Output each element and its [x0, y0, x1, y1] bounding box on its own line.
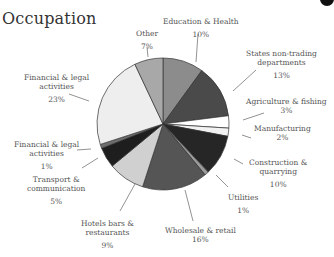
label-financial-legal-23: Financial & legal activities 23% [24, 73, 89, 104]
pie-slices [97, 58, 229, 190]
label-financial-legal-1: Financial & legal activities 1% [14, 140, 79, 171]
label-construction-quarrying: Construction & quarrying 10% [249, 158, 307, 189]
label-agriculture-fishing: Agriculture & fishing 3% [246, 97, 327, 115]
label-wholesale-retail: Wholesale & retail 16% [165, 226, 236, 244]
label-education-health: Education & Health 10% [163, 17, 239, 39]
label-transport-communication: Transport & communication 5% [27, 175, 85, 206]
label-hotels-bars-restaurants: Hotels bars & restaurants 9% [81, 219, 134, 250]
label-manufacturing: Manufacturing 2% [254, 124, 311, 142]
label-other: Other 7% [136, 29, 158, 51]
label-utilities: Utilities 1% [228, 193, 258, 215]
label-states-non-trading: States non-trading departments 13% [246, 49, 317, 80]
